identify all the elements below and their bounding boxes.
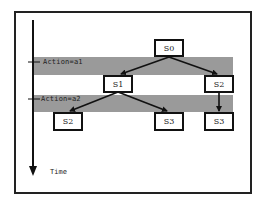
node-s2-bottom: S2 [53, 112, 83, 131]
edge-s0-s2 [169, 57, 217, 74]
edge-s1-s3 [118, 92, 167, 111]
node-label: S3 [214, 117, 225, 126]
node-label: S1 [113, 80, 124, 89]
node-s3-mid: S3 [154, 112, 184, 131]
edge-s0-s1 [121, 57, 169, 74]
node-label: S2 [214, 80, 225, 89]
node-s0: S0 [154, 39, 184, 57]
diagram-edges [0, 0, 265, 207]
node-label: S3 [164, 117, 175, 126]
time-axis-arrowhead [29, 166, 37, 176]
action-label-a2: Action=a2 [41, 95, 81, 103]
node-s2-top: S2 [204, 75, 234, 93]
node-label: S2 [63, 117, 74, 126]
node-s3-right: S3 [204, 112, 234, 131]
time-label: Time [50, 168, 67, 176]
node-s1: S1 [103, 75, 133, 93]
action-label-a1: Action=a1 [43, 58, 83, 66]
node-label: S0 [164, 44, 175, 53]
